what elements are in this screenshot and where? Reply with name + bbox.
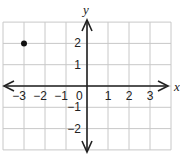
x-tick-label: −2 <box>33 89 47 103</box>
x-tick-label: 2 <box>126 89 133 103</box>
y-tick-label: 2 <box>74 36 81 50</box>
x-tick-label: 3 <box>147 89 154 103</box>
y-tick-label: 1 <box>74 58 81 72</box>
y-axis-label: y <box>81 2 89 17</box>
coordinate-plane: −3−2−112321−1−2 x y 0 <box>0 0 180 161</box>
y-tick-label: −2 <box>67 122 81 136</box>
x-tick-label: −3 <box>12 89 26 103</box>
x-axis-label: x <box>173 79 180 94</box>
origin-label: 0 <box>76 89 83 103</box>
data-point <box>21 40 27 46</box>
data-points <box>21 40 27 46</box>
x-tick-label: 1 <box>105 89 112 103</box>
x-tick-label: −1 <box>54 89 68 103</box>
axes <box>4 20 168 152</box>
